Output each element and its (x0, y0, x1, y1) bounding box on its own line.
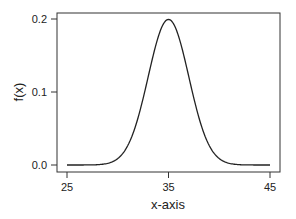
y-axis-label: f(x) (11, 83, 26, 102)
x-tick-label: 45 (264, 181, 276, 193)
y-tick-label: 0.0 (32, 159, 47, 171)
y-tick-label: 0.1 (32, 86, 47, 98)
x-axis-label: x-axis (151, 197, 185, 212)
y-tick-label: 0.2 (32, 13, 47, 25)
density-curve (67, 19, 270, 165)
y-axis-ticks: 0.00.10.2 (32, 13, 57, 171)
x-axis-ticks: 253545 (61, 172, 276, 193)
x-tick-label: 35 (162, 181, 174, 193)
normal-density-chart: 0.00.10.2 253545 x-axis f(x) (0, 0, 296, 219)
x-tick-label: 25 (61, 181, 73, 193)
plot-box (57, 13, 280, 172)
